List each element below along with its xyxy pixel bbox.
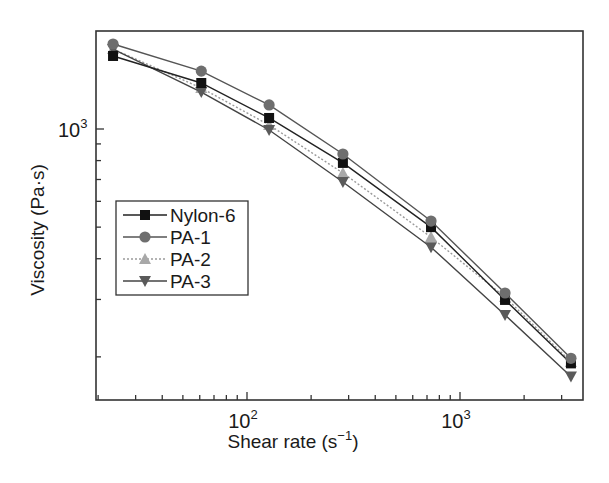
legend-label: Nylon-6 <box>170 205 235 226</box>
square-marker <box>264 113 274 123</box>
circle-marker <box>337 148 348 159</box>
x-axis-label-main: Shear rate (s <box>228 431 338 452</box>
legend-label: PA-3 <box>170 271 211 292</box>
legend-label: PA-2 <box>170 249 211 270</box>
y-axis-label: Viscosity (Pa·s) <box>27 164 48 296</box>
circle-marker <box>107 38 118 49</box>
circle-marker <box>264 99 275 110</box>
viscosity-chart: 102103 103 Nylon-6PA-1PA-2PA-3 Shear rat… <box>0 0 609 483</box>
square-marker <box>196 78 206 88</box>
x-axis-label-exp: −1 <box>337 428 352 443</box>
x-axis-label: Shear rate (s−1) <box>228 428 359 452</box>
square-marker <box>140 210 150 220</box>
triangle-down-marker <box>337 177 349 188</box>
triangle-down-marker <box>565 372 577 383</box>
x-axis-label-close: ) <box>352 431 358 452</box>
y-tick-label: 103 <box>58 116 87 141</box>
triangle-up-marker <box>337 167 349 178</box>
legend: Nylon-6PA-1PA-2PA-3 <box>116 201 248 295</box>
triangle-up-marker <box>425 231 437 242</box>
circle-marker <box>196 66 207 77</box>
x-tick-label: 102 <box>228 407 257 432</box>
triangle-down-marker <box>263 125 275 136</box>
y-axis-ticks: 103 <box>58 116 104 357</box>
square-marker <box>108 51 118 61</box>
circle-marker <box>565 353 576 364</box>
circle-marker <box>425 215 436 226</box>
x-tick-label: 103 <box>441 407 470 432</box>
circle-marker <box>139 231 150 242</box>
legend-label: PA-1 <box>170 227 211 248</box>
circle-marker <box>499 287 510 298</box>
x-axis-ticks: 102103 <box>98 392 562 432</box>
